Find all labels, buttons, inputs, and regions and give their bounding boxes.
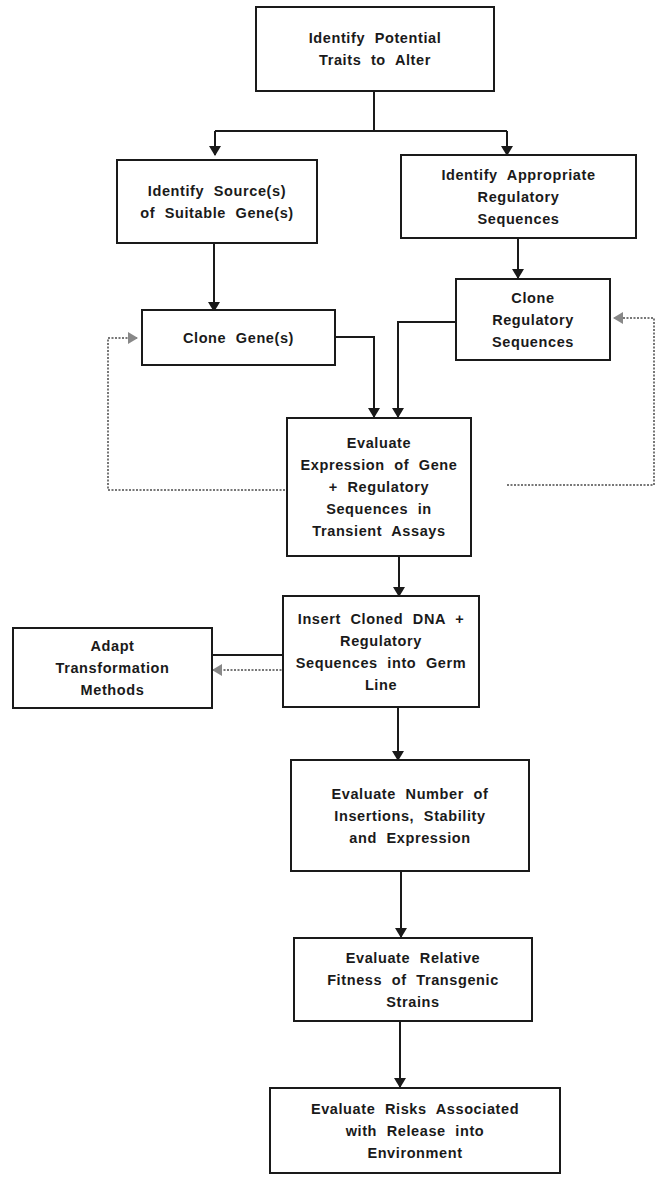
node-label: Evaluate Expression of Gene + Regulatory… [301, 432, 458, 542]
node-label: Adapt Transformation Methods [56, 635, 170, 701]
node-evaluate-fitness: Evaluate Relative Fitness of Transgenic … [293, 937, 533, 1022]
node-evaluate-expression: Evaluate Expression of Gene + Regulatory… [286, 417, 472, 557]
node-label: Identify Appropriate Regulatory Sequence… [441, 164, 595, 230]
node-label: Evaluate Number of Insertions, Stability… [332, 783, 489, 849]
edge-cloneregulatory-to-evaluate [398, 322, 456, 417]
node-label: Insert Cloned DNA + Regulatory Sequences… [296, 608, 466, 696]
node-identify-sources: Identify Source(s) of Suitable Gene(s) [116, 159, 318, 244]
node-identify-regulatory: Identify Appropriate Regulatory Sequence… [400, 154, 637, 239]
node-evaluate-risks: Evaluate Risks Associated with Release i… [269, 1087, 561, 1174]
node-label: Identify Source(s) of Suitable Gene(s) [140, 180, 294, 224]
node-label: Clone Regulatory Sequences [492, 287, 574, 353]
node-identify-traits: Identify Potential Traits to Alter [255, 6, 495, 92]
node-label: Evaluate Risks Associated with Release i… [311, 1098, 519, 1164]
node-clone-genes: Clone Gene(s) [141, 309, 336, 366]
node-label: Evaluate Relative Fitness of Transgenic … [327, 947, 499, 1013]
node-adapt-methods: Adapt Transformation Methods [12, 627, 213, 709]
node-insert-dna: Insert Cloned DNA + Regulatory Sequences… [282, 595, 480, 708]
node-evaluate-insertions: Evaluate Number of Insertions, Stability… [290, 759, 530, 872]
edge-clonegenes-to-evaluate [334, 337, 374, 417]
node-clone-regulatory: Clone Regulatory Sequences [455, 278, 611, 361]
node-label: Clone Gene(s) [183, 327, 294, 349]
node-label: Identify Potential Traits to Alter [309, 27, 442, 71]
edge-traits-split [215, 90, 507, 131]
